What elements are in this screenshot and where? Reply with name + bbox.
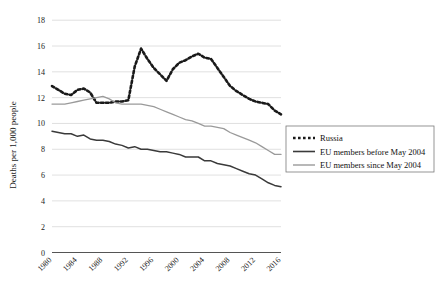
- y-tick-label: 18: [37, 16, 45, 25]
- x-tick-label: 2012: [239, 256, 257, 274]
- x-tick-label: 1988: [87, 256, 105, 274]
- y-tick-label: 4: [41, 197, 45, 206]
- data-series-layer: [52, 49, 281, 187]
- x-tick-label: 1996: [138, 256, 156, 274]
- y-tick-label: 10: [37, 119, 45, 128]
- y-tick-label: 8: [41, 145, 45, 154]
- x-tick-label: 2016: [265, 256, 283, 274]
- gridlines: [52, 20, 281, 226]
- y-tick-label: 14: [37, 68, 45, 77]
- chart-legend: RussiaEU members before May 2004EU membe…: [286, 126, 434, 172]
- legend-label: EU members before May 2004: [320, 147, 426, 157]
- legend-label: Russia: [320, 133, 343, 143]
- legend-label: EU members since May 2004: [320, 160, 422, 170]
- x-tick-label: 2008: [214, 256, 232, 274]
- y-axis-title: Deaths per 1,000 people: [8, 101, 18, 188]
- y-tick-label: 6: [41, 171, 45, 180]
- y-axis-ticks: 024681012141618: [37, 16, 45, 257]
- y-tick-label: 12: [37, 94, 45, 103]
- series-line-1: [52, 49, 281, 115]
- x-axis-ticks: 1980198419881992199620002004200820122016: [36, 256, 283, 274]
- series-line-3: [52, 96, 281, 154]
- x-tick-label: 1984: [61, 256, 79, 274]
- chart-figure: 024681012141618 198019841988199219962000…: [0, 0, 440, 286]
- x-tick-label: 2000: [163, 256, 181, 274]
- x-tick-label: 2004: [188, 256, 206, 274]
- x-tick-label: 1980: [36, 256, 54, 274]
- y-tick-label: 0: [41, 249, 45, 258]
- line-chart: 024681012141618 198019841988199219962000…: [0, 0, 440, 286]
- x-tick-label: 1992: [112, 256, 130, 274]
- y-tick-label: 16: [37, 42, 45, 51]
- y-tick-label: 2: [41, 223, 45, 232]
